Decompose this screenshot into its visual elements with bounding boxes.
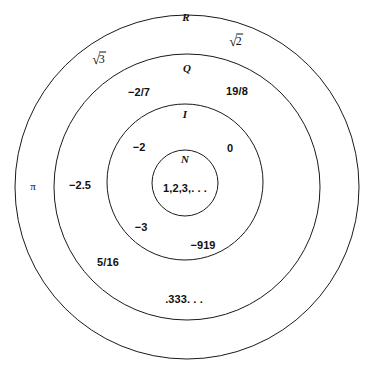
member-sqrt2: √2	[229, 32, 243, 49]
member-pi: π	[30, 181, 36, 192]
member-0: 0	[227, 143, 233, 154]
radical-2: √2	[229, 34, 243, 49]
member-neg-3: −3	[135, 222, 148, 233]
member-19-8: 19/8	[226, 86, 248, 97]
member-neg-2: −2	[133, 142, 146, 153]
set-label-R: R	[182, 12, 190, 23]
radical-argument: 2	[236, 34, 243, 49]
labels-layer: R Q I N √3 √2 π −2/7 19/8 −2.5 5/16 .333…	[0, 0, 367, 376]
radical-argument: 3	[99, 52, 106, 67]
member-neg-2-5: −2.5	[69, 180, 91, 191]
number-sets-diagram: R Q I N √3 √2 π −2/7 19/8 −2.5 5/16 .333…	[0, 0, 367, 376]
member-5-16: 5/16	[97, 257, 119, 268]
member-neg-919: −919	[190, 240, 215, 251]
member-sqrt3: √3	[92, 50, 106, 67]
set-label-N: N	[181, 154, 189, 165]
member-point-333: .333. . .	[165, 294, 203, 305]
member-naturals: 1,2,3,. . .	[163, 183, 207, 194]
set-label-I: I	[183, 109, 187, 120]
radical-3: √3	[92, 52, 106, 67]
member-neg-2-7: −2/7	[128, 87, 150, 98]
set-label-Q: Q	[183, 63, 191, 74]
